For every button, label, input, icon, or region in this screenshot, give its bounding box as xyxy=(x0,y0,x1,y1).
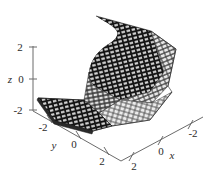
y-tick-label-2: 2 xyxy=(99,155,105,167)
surface-group xyxy=(37,16,176,134)
x-tick-label-neg2: -2 xyxy=(188,127,197,139)
y-tick-label-neg2: -2 xyxy=(38,121,47,133)
z-tick-label-2: 2 xyxy=(17,41,23,53)
z-axis-name: z xyxy=(7,73,13,85)
y-axis-name: y xyxy=(51,139,57,151)
x-axis-name: x xyxy=(169,149,175,161)
x-tick-label-0: 0 xyxy=(158,145,164,157)
z-tick-label-0: 0 xyxy=(18,73,24,85)
y-axis-tick-2 xyxy=(104,147,109,155)
surface-plot-figure: 2 0 -2 z -2 0 2 y 2 0 -2 x xyxy=(0,0,211,178)
plot-canvas: 2 0 -2 z -2 0 2 y 2 0 -2 x xyxy=(0,0,211,178)
upper-sheet-face xyxy=(89,16,164,100)
z-tick-label-neg2: -2 xyxy=(13,104,22,116)
y-tick-label-0: 0 xyxy=(71,138,77,150)
surface-panel-upper-dark xyxy=(89,16,164,100)
y-axis-tick-0 xyxy=(76,131,81,139)
x-tick-label-2: 2 xyxy=(131,160,137,172)
